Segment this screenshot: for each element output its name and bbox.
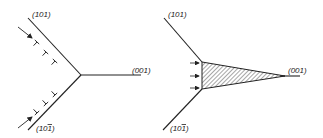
upper-boundary-line xyxy=(28,18,81,75)
grain-boundary-diagrams: (101) (001) (101) (101) (001) (101) xyxy=(0,0,323,138)
label-right-plane: (001) xyxy=(288,66,307,75)
label-upper-plane: (101) xyxy=(168,10,187,19)
left-diagram: (101) (001) (101) xyxy=(18,10,151,133)
lower-dislocation-icons xyxy=(31,89,57,115)
label-lower-plane: (101) xyxy=(36,124,55,133)
label-lower-plane: (101) xyxy=(170,124,189,133)
lower-arrow-icon xyxy=(18,117,32,128)
label-right-plane: (001) xyxy=(132,66,151,75)
arrow-icons xyxy=(190,63,199,88)
label-upper-plane: (101) xyxy=(32,10,51,19)
hatched-wedge xyxy=(202,62,285,89)
right-diagram: (101) (001) (101) xyxy=(163,10,307,133)
upper-dislocation-icons xyxy=(31,40,57,67)
lower-boundary-line xyxy=(28,75,81,130)
upper-arrow-icon xyxy=(18,27,32,38)
upper-boundary-line xyxy=(164,18,202,62)
